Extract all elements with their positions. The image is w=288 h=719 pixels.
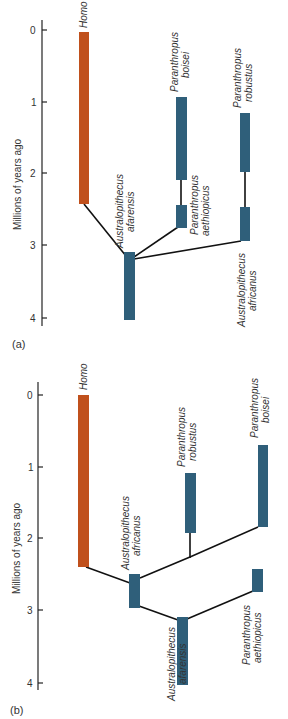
svg-text:africanus: africanus xyxy=(247,270,258,311)
branches-b xyxy=(86,527,258,620)
taxon-label-homo: Homo xyxy=(78,1,89,28)
taxon-label-boisei: Paranthropus boisei xyxy=(169,32,191,92)
svg-text:Australopithecus: Australopithecus xyxy=(114,174,125,249)
range-bar-robustus xyxy=(240,113,250,172)
range-bar-africanus xyxy=(240,207,250,241)
tick-label: 0 xyxy=(30,25,36,36)
axis-title: Millions of years ago xyxy=(12,138,23,230)
axis-title: Millions of years ago xyxy=(11,502,22,594)
tick-label: 1 xyxy=(31,97,37,108)
tick-label: 3 xyxy=(30,240,36,251)
taxon-label-robustus: Paranthropus robustus xyxy=(176,407,198,467)
panel-label-b: (b) xyxy=(10,704,23,716)
tick-label: 0 xyxy=(27,390,33,401)
svg-text:Paranthropus: Paranthropus xyxy=(249,378,260,438)
svg-text:robustus: robustus xyxy=(243,64,254,102)
hominin-phylogeny-figure: 0 1 2 3 4 Millions of years ago Homo Aus… xyxy=(0,0,288,719)
tick-label: 1 xyxy=(28,462,34,473)
range-bar-aethiopicus xyxy=(252,569,263,592)
svg-text:robustus: robustus xyxy=(187,423,198,461)
range-bar-africanus xyxy=(129,574,140,608)
range-bar-aethiopicus xyxy=(176,205,187,228)
svg-text:Australopithecus: Australopithecus xyxy=(166,627,177,702)
range-bar-afarensis xyxy=(124,252,135,320)
svg-text:boisei: boisei xyxy=(260,396,271,423)
time-axis-a: 0 1 2 3 4 Millions of years ago xyxy=(12,20,47,326)
panel-label-a: (a) xyxy=(12,338,25,350)
svg-text:boisei: boisei xyxy=(180,51,191,78)
range-bar-boisei xyxy=(258,445,268,527)
branches-a xyxy=(84,172,245,259)
taxon-label-homo: Homo xyxy=(78,363,89,390)
svg-text:afarensis: afarensis xyxy=(125,191,136,232)
range-bar-homo xyxy=(78,395,89,567)
range-bar-boisei xyxy=(176,97,187,180)
svg-text:Paranthropus: Paranthropus xyxy=(189,175,200,235)
taxon-label-africanus: Australopithecus africanus xyxy=(236,253,258,328)
taxon-label-boisei: Paranthropus boisei xyxy=(249,378,271,438)
branch-africanus-afarensis xyxy=(139,606,178,620)
svg-text:africanus: africanus xyxy=(131,515,142,556)
range-bar-robustus xyxy=(185,473,196,533)
time-axis-b: 0 1 2 3 4 Millions of years ago xyxy=(11,382,43,690)
taxon-label-africanus: Australopithecus africanus xyxy=(120,496,142,571)
taxon-label-robustus: Paranthropus robustus xyxy=(232,48,254,108)
tick-label: 2 xyxy=(27,533,33,544)
tick-label: 3 xyxy=(27,605,33,616)
tick-label: 4 xyxy=(30,313,36,324)
tick-label: 2 xyxy=(30,168,36,179)
taxon-label-afarensis: Australopithecus afarensis xyxy=(114,174,136,249)
svg-text:Paranthropus: Paranthropus xyxy=(169,32,180,92)
taxon-label-aethiopicus: Paranthropus aethiopicus xyxy=(241,605,263,665)
range-bar-homo xyxy=(79,32,89,204)
panel-a: 0 1 2 3 4 Millions of years ago Homo Aus… xyxy=(12,1,258,350)
svg-text:Paranthropus: Paranthropus xyxy=(241,605,252,665)
svg-text:Paranthropus: Paranthropus xyxy=(232,48,243,108)
branch-afarensis-africanus xyxy=(134,241,241,259)
tick-label: 4 xyxy=(27,678,33,689)
svg-text:Australopithecus: Australopithecus xyxy=(236,253,247,328)
svg-text:Australopithecus: Australopithecus xyxy=(120,496,131,571)
branch-africanus-boisei xyxy=(140,527,258,578)
panel-b: 0 1 2 3 4 Millions of years ago Homo Aus… xyxy=(10,363,271,716)
svg-text:aethiopicus: aethiopicus xyxy=(200,185,211,236)
svg-text:aethiopicus: aethiopicus xyxy=(252,612,263,663)
taxon-label-aethiopicus: Paranthropus aethiopicus xyxy=(189,175,211,236)
svg-text:Paranthropus: Paranthropus xyxy=(176,407,187,467)
svg-text:afarensis: afarensis xyxy=(177,643,188,684)
